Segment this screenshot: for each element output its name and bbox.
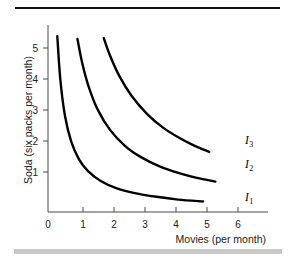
x-axis-title: Movies (per month) [176,233,266,245]
origin-tick-label: 0 [45,219,51,230]
x-tick-label-4: 4 [173,219,179,230]
curve-label-i1: I1 [244,191,253,206]
indifference-curves-chart: 5 4 3 2 1 0 1 2 3 4 5 6 Movies (per mont… [0,0,290,261]
bottom-gray-bar [14,249,282,254]
indifference-curve-i1 [57,36,203,201]
indifference-curve-i3 [104,38,209,152]
indifference-curve-figure: 5 4 3 2 1 0 1 2 3 4 5 6 Movies (per mont… [0,0,290,261]
indifference-curve-i2 [77,39,215,182]
y-axis-title: Soda (six packs per month) [22,56,34,184]
x-tick-label-1: 1 [80,219,86,230]
x-tick-label-5: 5 [204,219,210,230]
x-tick-label-3: 3 [142,219,148,230]
x-tick-label-6: 6 [235,219,241,230]
curve-label-i3: I3 [244,134,253,149]
curve-label-i2: I2 [244,158,253,173]
x-tick-label-2: 2 [111,219,117,230]
y-tick-label-5: 5 [32,43,38,54]
